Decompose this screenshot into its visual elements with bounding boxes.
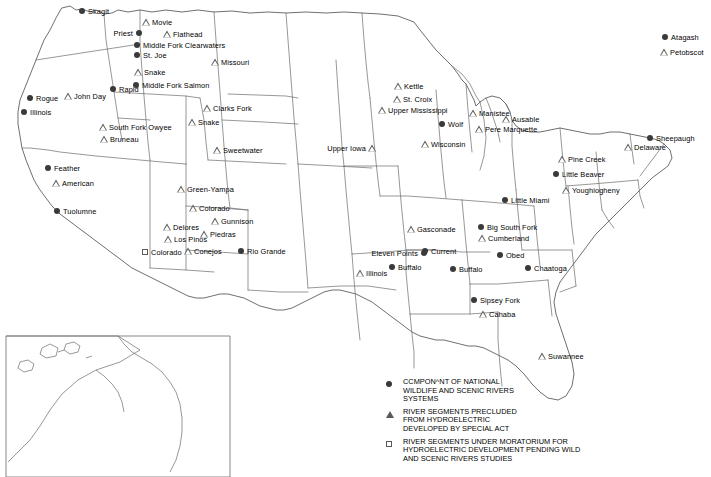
map-marker-label: Flathead — [173, 30, 203, 39]
triangle-marker-icon — [134, 69, 142, 76]
triangle-marker-icon — [164, 236, 172, 243]
triangle-marker-icon — [356, 270, 364, 277]
triangle-marker-icon — [163, 31, 171, 38]
map-marker-label: Green-Yampa — [187, 185, 234, 194]
triangle-marker-icon — [52, 180, 60, 187]
map-marker-label: Tuolumne — [63, 207, 96, 216]
triangle-marker-icon — [475, 126, 483, 133]
map-marker-label: Priest — [114, 29, 134, 38]
dot-marker-icon — [647, 135, 653, 141]
map-marker-label: Colorado — [199, 204, 230, 213]
legend-row: RIVER SEGMENTS PRECLUDED FROM HYDROELECT… — [381, 408, 621, 434]
triangle-marker-icon — [213, 147, 221, 154]
triangle-marker-icon — [368, 145, 376, 152]
triangle-marker-icon — [211, 59, 219, 66]
map-marker-label: Piedras — [210, 230, 236, 239]
dot-marker-icon — [79, 8, 85, 14]
map-marker-label: Feather — [54, 164, 80, 173]
triangle-marker-icon — [660, 49, 668, 56]
triangle-marker-icon — [189, 205, 197, 212]
map-marker-label: Sweetwater — [223, 146, 263, 155]
triangle-marker-icon — [478, 235, 486, 242]
map-marker-label: Petobscot — [670, 48, 704, 57]
nationwide-rivers-inventory-map: SkagitMoviePriestFlatheadMiddle Fork Cle… — [0, 0, 711, 477]
map-marker-label: St. Joe — [143, 51, 167, 60]
map-marker-label: Atagash — [671, 33, 699, 42]
triangle-marker-icon — [211, 218, 219, 225]
map-marker-label: Pere Marquette — [485, 125, 537, 134]
map-marker-label: Rio Grande — [247, 247, 286, 256]
map-marker-label: Illinois — [366, 269, 387, 278]
triangle-marker-icon — [562, 187, 570, 194]
triangle-marker-icon — [188, 119, 196, 126]
dot-marker-icon — [27, 95, 33, 101]
map-marker-label: Clarks Fork — [213, 104, 252, 113]
dot-marker-icon — [134, 52, 140, 58]
legend-row: CCMPON^NT OF NATIONAL WILDLIFE AND SCENI… — [381, 378, 621, 404]
map-marker-label: Little Beaver — [562, 170, 604, 179]
triangle-marker-icon — [100, 136, 108, 143]
triangle-legend-icon — [386, 411, 394, 418]
dot-marker-icon — [497, 252, 503, 258]
dot-marker-icon — [136, 30, 142, 36]
map-marker-label: Missouri — [221, 58, 249, 67]
dot-marker-icon — [238, 248, 244, 254]
dot-marker-icon — [134, 42, 140, 48]
dot-marker-icon — [439, 121, 445, 127]
map-marker-label: Wolf — [448, 120, 463, 129]
dot-marker-icon — [110, 86, 116, 92]
map-marker-label: Sipsey Fork — [480, 296, 520, 305]
square-marker-icon — [142, 249, 148, 255]
map-marker-label: Upper Iowa — [327, 144, 366, 153]
map-marker-label: Skagit — [88, 7, 109, 16]
map-marker-label: Ausable — [512, 115, 539, 124]
map-marker-label: Colorado — [151, 248, 182, 257]
triangle-marker-icon — [393, 96, 401, 103]
dot-legend-icon — [386, 381, 392, 387]
map-marker-label: Buffalo — [398, 263, 422, 272]
triangle-marker-icon — [558, 156, 566, 163]
triangle-marker-icon — [469, 110, 477, 117]
map-marker-label: Buffalo — [459, 265, 483, 274]
map-marker-label: Youghiogheny — [572, 186, 620, 195]
map-marker-label: Obed — [506, 251, 524, 260]
map-marker-label: Los Pinos — [174, 235, 207, 244]
legend-label: CCMPON^NT OF NATIONAL WILDLIFE AND SCENI… — [403, 378, 621, 404]
triangle-marker-icon — [421, 141, 429, 148]
legend-label: RIVER SEGMENTS UNDER MORATORIUM FOR HYDR… — [403, 438, 621, 464]
dot-marker-icon — [21, 109, 27, 115]
map-marker-label: Big South Fork — [487, 223, 537, 232]
map-marker-label: Chaatoga — [534, 264, 567, 273]
triangle-marker-icon — [184, 248, 192, 255]
dot-marker-icon — [553, 171, 559, 177]
dot-marker-icon — [450, 266, 456, 272]
map-marker-label: Conejos — [194, 247, 222, 256]
map-marker-label: American — [62, 179, 94, 188]
dot-marker-icon — [471, 297, 477, 303]
map-marker-label: Illinois — [30, 108, 51, 117]
triangle-marker-icon — [203, 105, 211, 112]
map-marker-label: Wisconsin — [431, 140, 466, 149]
map-marker-label: Delores — [173, 223, 199, 232]
dot-marker-icon — [525, 265, 531, 271]
map-marker-label: Rapid — [119, 85, 139, 94]
map-marker-label: John Day — [74, 92, 106, 101]
triangle-marker-icon — [624, 144, 632, 151]
map-marker-label: St. Croix — [403, 95, 432, 104]
map-marker-label: South Fork Owyee — [109, 123, 172, 132]
triangle-marker-icon — [142, 19, 150, 26]
map-marker-label: Current — [431, 247, 456, 256]
legend-label: RIVER SEGMENTS PRECLUDED FROM HYDROELECT… — [403, 408, 621, 434]
dot-marker-icon — [422, 248, 428, 254]
triangle-marker-icon — [378, 107, 386, 114]
map-marker-label: Upper Mississippi — [388, 106, 448, 115]
map-marker-label: Gunnison — [221, 217, 253, 226]
map-marker-label: Kettle — [404, 82, 424, 91]
map-marker-label: Middle Fork Clearwaters — [143, 41, 225, 50]
triangle-marker-icon — [538, 353, 546, 360]
triangle-marker-icon — [479, 311, 487, 318]
triangle-marker-icon — [394, 83, 402, 90]
dot-marker-icon — [389, 264, 395, 270]
map-marker-label: Pine Creek — [568, 155, 606, 164]
triangle-marker-icon — [407, 226, 415, 233]
